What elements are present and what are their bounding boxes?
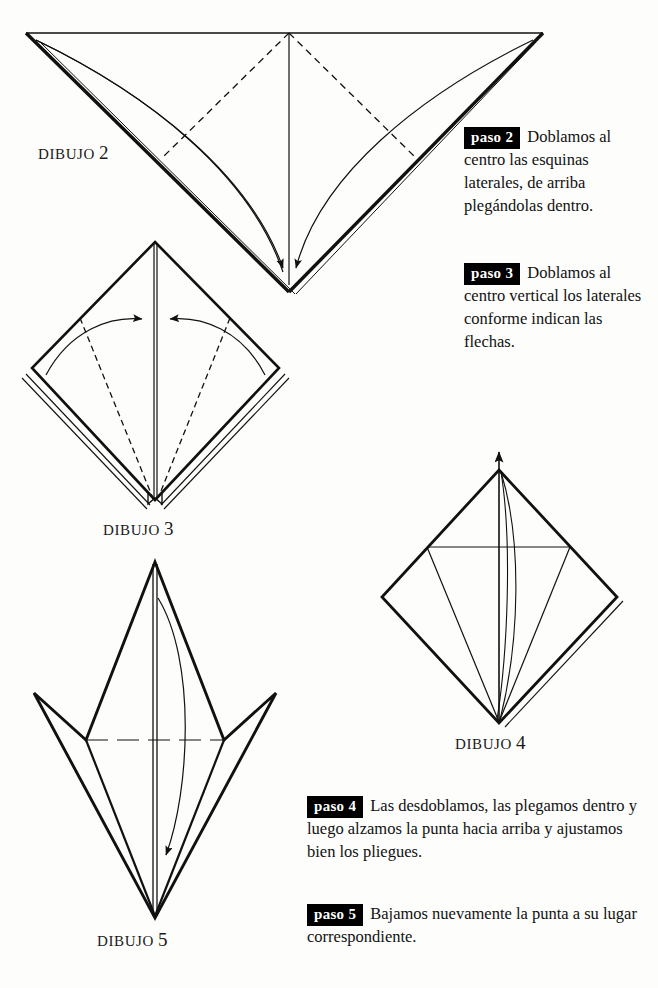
caption-number: 5	[158, 929, 168, 950]
figure-caption-dibujo-5: DIBUJO 5	[97, 929, 168, 951]
fig2-dashed-left	[163, 33, 289, 157]
fig5-down-arrow	[158, 598, 185, 855]
figure-caption-dibujo-2: DIBUJO 2	[38, 142, 109, 164]
step-badge: paso 2	[464, 127, 520, 149]
step-badge: paso 4	[307, 796, 363, 818]
step-block-paso-5: paso 5Bajamos nuevamente la punta a su l…	[307, 903, 655, 949]
caption-word: DIBUJO	[97, 933, 154, 949]
step-block-paso-4: paso 4Las desdoblamos, las plegamos dent…	[307, 795, 655, 864]
step-badge: paso 3	[464, 263, 520, 285]
fig4-inner-left	[427, 547, 499, 722]
fig3-layer-left-2	[22, 378, 147, 509]
caption-number: 4	[516, 732, 526, 753]
figure-caption-dibujo-4: DIBUJO 4	[455, 732, 526, 754]
caption-word: DIBUJO	[455, 736, 512, 752]
fig3-layer-right	[161, 374, 285, 505]
figure-caption-dibujo-3: DIBUJO 3	[103, 518, 174, 540]
step-badge: paso 5	[307, 904, 363, 926]
fig3-outline	[32, 242, 279, 500]
caption-number: 3	[164, 518, 174, 539]
figure-dibujo-3	[22, 242, 289, 509]
fig3-arrow-left	[46, 319, 142, 375]
caption-word: DIBUJO	[38, 146, 95, 162]
origami-instruction-page: DIBUJO 2 DIBUJO 3 DIBUJO 4 DIBUJO 5 paso…	[0, 0, 658, 988]
fig3-layer-right-2	[164, 378, 289, 509]
caption-word: DIBUJO	[103, 522, 160, 538]
fig3-arrow-right	[170, 319, 265, 375]
caption-number: 2	[99, 142, 109, 163]
figure-dibujo-4	[382, 452, 623, 727]
fig2-dashed-right	[289, 33, 415, 157]
step-block-paso-2: paso 2Doblamos al centro las esquinas la…	[464, 126, 650, 217]
figure-dibujo-5	[34, 562, 276, 918]
fig5-inner-right	[155, 740, 224, 916]
fig3-layer-left	[26, 374, 150, 505]
step-block-paso-3: paso 3Doblamos al centro vertical los la…	[464, 262, 650, 353]
fig5-inner-left	[86, 740, 155, 916]
